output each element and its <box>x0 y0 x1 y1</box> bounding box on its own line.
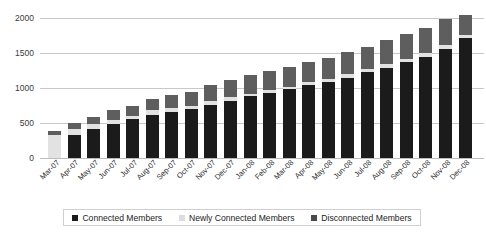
bar-segment-newly-connected <box>361 69 374 72</box>
bar-segment-newly-connected <box>341 74 354 78</box>
bar-segment-newly-connected <box>419 53 432 57</box>
bar-segment-newly-connected <box>68 129 81 135</box>
bar-segment-newly-connected <box>87 124 100 128</box>
bar-segment-newly-connected <box>244 94 257 97</box>
bar-segment-newly-connected <box>165 108 178 112</box>
bar-segment-disconnected <box>126 106 139 117</box>
bar-segment-connected <box>224 101 237 158</box>
bar-segment-disconnected <box>68 123 81 129</box>
bar-segment-connected <box>126 119 139 158</box>
y-axis: 0500100015002000 <box>0 0 40 244</box>
bars-layer <box>40 18 484 158</box>
chart-legend: Connected MembersNewly Connected Members… <box>63 209 421 226</box>
bar-segment-newly-connected <box>302 82 315 85</box>
bar-segment-newly-connected <box>322 79 335 82</box>
bar-segment-connected <box>185 109 198 158</box>
legend-item[interactable]: Newly Connected Members <box>179 213 295 223</box>
y-axis-tick-label: 0 <box>0 153 34 163</box>
bar-segment-newly-connected <box>146 110 159 114</box>
bar-segment-connected <box>146 115 159 158</box>
bar-segment-disconnected <box>224 80 237 97</box>
bar-segment-disconnected <box>302 62 315 82</box>
bar-segment-connected <box>400 62 413 158</box>
bar-segment-connected <box>322 82 335 158</box>
bar-segment-disconnected <box>165 95 178 108</box>
bar-segment-connected <box>341 78 354 159</box>
bar-segment-connected <box>302 85 315 158</box>
bar-segment-connected <box>361 72 374 158</box>
bar-segment-disconnected <box>459 15 472 35</box>
x-axis: Mar-07Apr-07May-07Jun-07Jul-07Aug-07Sep-… <box>40 158 484 206</box>
legend-label: Newly Connected Members <box>189 213 295 223</box>
bar-segment-disconnected <box>263 71 276 90</box>
bar-segment-disconnected <box>204 85 217 101</box>
bar-segment-newly-connected <box>126 116 139 119</box>
bar-segment-connected <box>204 105 217 158</box>
bar-segment-connected <box>283 89 296 158</box>
bar-segment-connected <box>244 96 257 158</box>
bar-segment-connected <box>107 124 120 158</box>
bar-segment-disconnected <box>400 34 413 59</box>
bar-segment-newly-connected <box>283 87 296 90</box>
bar-segment-disconnected <box>283 67 296 87</box>
bar-segment-disconnected <box>439 19 452 45</box>
legend-label: Disconnected Members <box>321 213 411 223</box>
y-axis-tick-label: 1000 <box>0 83 34 93</box>
bar-segment-disconnected <box>48 131 61 135</box>
bar-segment-newly-connected <box>204 101 217 105</box>
y-axis-tick-label: 500 <box>0 118 34 128</box>
bar-segment-newly-connected <box>439 45 452 49</box>
bar-segment-connected <box>380 68 393 158</box>
bar-segment-connected <box>263 93 276 158</box>
bar-segment-connected <box>419 57 432 159</box>
bar-segment-disconnected <box>244 75 257 93</box>
bar-segment-newly-connected <box>185 106 198 109</box>
chart-container: 0500100015002000 Mar-07Apr-07May-07Jun-0… <box>0 0 486 244</box>
bar-segment-newly-connected <box>107 120 120 124</box>
legend-swatch-icon <box>179 215 185 221</box>
y-axis-tick-label: 1500 <box>0 48 34 58</box>
bar-segment-newly-connected <box>48 135 61 158</box>
bar-segment-connected <box>87 129 100 158</box>
legend-item[interactable]: Connected Members <box>72 213 162 223</box>
plot-area <box>40 18 484 158</box>
bar-segment-disconnected <box>146 99 159 111</box>
legend-swatch-icon <box>311 215 317 221</box>
bar-segment-disconnected <box>361 47 374 69</box>
legend-label: Connected Members <box>82 213 162 223</box>
bar-segment-connected <box>439 49 452 158</box>
bar-segment-newly-connected <box>224 97 237 101</box>
bar-segment-connected <box>459 38 472 158</box>
bar-segment-newly-connected <box>400 59 413 63</box>
bar-segment-disconnected <box>87 117 100 125</box>
bar-segment-connected <box>68 135 81 158</box>
bar-segment-newly-connected <box>263 90 276 93</box>
bar-segment-connected <box>165 112 178 158</box>
legend-item[interactable]: Disconnected Members <box>311 213 411 223</box>
bar-segment-disconnected <box>185 92 198 107</box>
y-axis-tick-label: 2000 <box>0 13 34 23</box>
bar-segment-disconnected <box>107 110 120 120</box>
bar-segment-disconnected <box>322 58 335 79</box>
legend-swatch-icon <box>72 215 78 221</box>
bar-segment-newly-connected <box>459 35 472 38</box>
bar-segment-newly-connected <box>380 64 393 68</box>
bar-segment-disconnected <box>341 52 354 74</box>
bar-segment-disconnected <box>380 40 393 64</box>
bar-segment-disconnected <box>419 28 432 53</box>
